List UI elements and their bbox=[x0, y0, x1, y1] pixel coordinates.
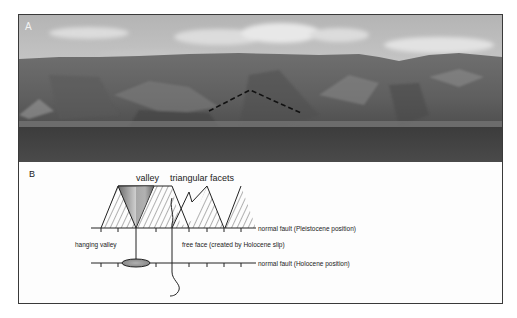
panel-a-label: A bbox=[25, 21, 32, 32]
hanging-valley-ellipse bbox=[122, 259, 150, 267]
triangular-facets-label: triangular facets bbox=[170, 173, 235, 183]
fault-pleistocene-label: normal fault (Pleistocene position) bbox=[258, 225, 356, 233]
panel-b-label: B bbox=[29, 169, 35, 179]
lake-water bbox=[19, 127, 502, 162]
panel-b-diagram: B valley triangular facets norma bbox=[19, 162, 502, 303]
figure-frame: A B valley triangular facets bbox=[18, 14, 503, 304]
fault-holocene bbox=[91, 263, 256, 267]
hanging-valley-label: hanging valley bbox=[75, 241, 117, 249]
fault-holocene-label: normal fault (Holocene position) bbox=[258, 260, 350, 268]
fault-pleistocene bbox=[91, 228, 256, 232]
free-face-label: free face (created by Holocene slip) bbox=[182, 241, 285, 249]
shoreline bbox=[19, 121, 502, 127]
panel-a-photo: A bbox=[19, 15, 502, 162]
facet-right bbox=[225, 186, 256, 228]
valley-label: valley bbox=[136, 173, 160, 183]
